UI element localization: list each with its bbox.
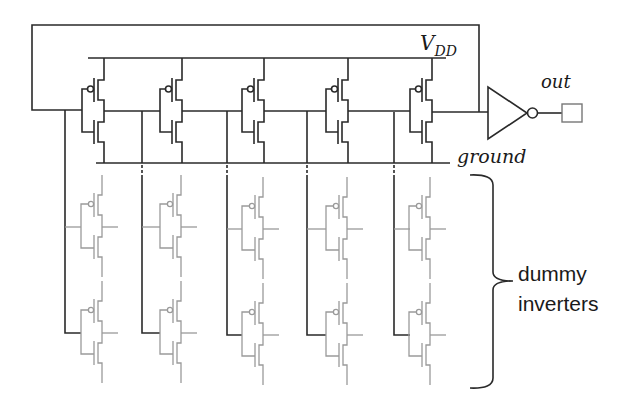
inverter-stage-4 (326, 58, 348, 163)
dummy-bus-2 (142, 111, 160, 333)
inverter-bubble (528, 108, 538, 118)
dummy-bus-4 (307, 111, 326, 335)
inverter-stage-1 (82, 58, 104, 163)
dummy-bus-5 (394, 112, 410, 335)
vdd-label: VDD (420, 31, 457, 59)
dummy-bus-3 (227, 111, 242, 335)
inverter-stage-5 (410, 58, 432, 163)
dummy-label-line1: dummy (518, 262, 587, 285)
inverter-stage-3 (242, 58, 264, 163)
dummy-inverters (81, 175, 446, 385)
inverter-stage-2 (160, 58, 182, 163)
dummy-brace (470, 175, 513, 388)
out-label: out (541, 71, 571, 92)
output-buffer-inverter (488, 87, 562, 139)
ring-oscillator-diagram: VDD ground out dummy inverters (0, 0, 638, 405)
ground-label: ground (457, 145, 526, 167)
dummy-label-line2: inverters (518, 292, 599, 315)
feedback-wire (32, 25, 479, 112)
dummy-bus-1 (65, 110, 81, 333)
output-pad (562, 104, 582, 122)
